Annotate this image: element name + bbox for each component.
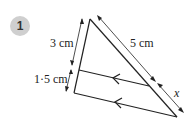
label-left-bottom: 1·5 cm: [34, 73, 68, 85]
base-line: [74, 93, 177, 117]
label-right-top: 5 cm: [130, 37, 154, 49]
right-side: [90, 19, 177, 117]
label-right-bottom: x: [174, 87, 179, 99]
label-left-top: 3 cm: [50, 37, 74, 49]
similar-triangles-diagram: [0, 0, 192, 139]
left-side: [74, 19, 90, 93]
